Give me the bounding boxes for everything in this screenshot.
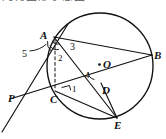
figure-canvas xyxy=(0,0,166,139)
point-label-D: D xyxy=(102,85,110,96)
chord-AB xyxy=(54,37,152,55)
angle-5-leader xyxy=(30,45,46,52)
point-label-C: C xyxy=(50,94,57,105)
center-point-dot xyxy=(98,63,101,66)
tangent-line-PA xyxy=(2,24,68,132)
point-label-P: P xyxy=(8,93,15,104)
secant-line-PB xyxy=(10,55,152,99)
main-circle xyxy=(47,13,153,119)
angle-1-mark xyxy=(62,86,71,91)
point-label-A: A xyxy=(40,30,47,41)
geometry-figure: 几何图形示意图 xyxy=(0,0,166,139)
point-label-O: O xyxy=(103,59,111,70)
angle-label-4: 4 xyxy=(85,71,90,80)
angle-label-2: 2 xyxy=(58,54,63,63)
point-label-B: B xyxy=(154,50,161,61)
angle-label-1: 1 xyxy=(72,85,77,94)
point-label-E: E xyxy=(114,120,121,131)
angle-label-5: 5 xyxy=(22,49,27,59)
angle-label-3: 3 xyxy=(70,42,75,52)
